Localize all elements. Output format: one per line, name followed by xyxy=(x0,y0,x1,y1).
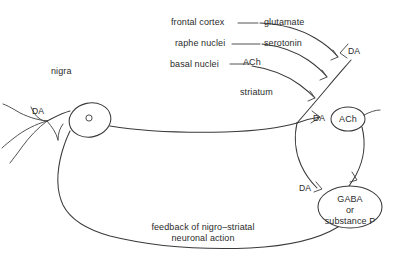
synapse-marker-da-cortical xyxy=(340,44,348,58)
frontal-cortex-label: frontal cortex xyxy=(171,17,224,28)
synapse-marker-da-gaba xyxy=(314,182,322,192)
raphe-nuclei-label: raphe nuclei xyxy=(175,38,225,49)
synapse-marker-glutamate xyxy=(331,50,338,60)
soma-nucleus xyxy=(86,115,92,121)
axon-branch-to-gaba xyxy=(295,123,317,188)
da-gaba-terminal-label: DA xyxy=(299,183,311,194)
feedback-label-line2: neuronal action xyxy=(171,233,234,244)
nigra-label: nigra xyxy=(51,66,72,77)
gaba-label-line3: substance P xyxy=(325,216,376,227)
afferent-serotonin-curve xyxy=(262,44,327,77)
feedback-label-line1: feedback of nigro–striatal xyxy=(151,222,254,233)
gaba-label-line2: or xyxy=(346,205,354,216)
striatum-label: striatum xyxy=(240,87,273,98)
nigrostriatal-pathway-diagram: nigra DA frontal cortex glutamate raphe … xyxy=(0,0,401,260)
gaba-label-line1: GABA xyxy=(337,194,362,205)
proximal-axon-segment xyxy=(47,111,70,121)
synapse-marker-serotonin xyxy=(320,70,327,80)
basal-nuclei-label: basal nuclei xyxy=(170,59,219,70)
da-cortical-label: DA xyxy=(348,46,360,57)
glutamate-label: glutamate xyxy=(264,17,304,28)
ach-input-label: ACh xyxy=(243,57,261,68)
ach-interneuron-process-right xyxy=(364,110,380,115)
serotonin-label: serotonin xyxy=(264,38,302,49)
da-ach-terminal-label: DA xyxy=(313,113,325,124)
ach-to-gaba-axon xyxy=(347,127,364,189)
ach-terminal-label: ACh xyxy=(339,114,357,125)
synapse-marker-ach-onto-gaba xyxy=(350,172,357,182)
dendrite-branch-lower xyxy=(10,121,47,163)
dendrite-branch-hook xyxy=(58,124,63,140)
da-dendrite-label: DA xyxy=(32,106,44,117)
dendrite-branch-down xyxy=(47,121,58,140)
main-axon-to-striatum xyxy=(110,123,297,132)
